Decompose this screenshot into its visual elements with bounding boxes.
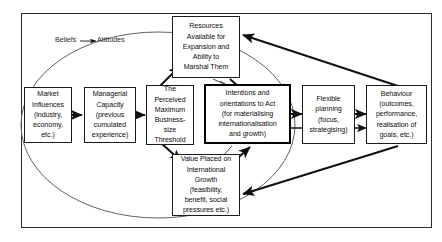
node-perceived-maximum-business-size-threshold[interactable]: The Perceived Maximum Business- size Thr… <box>146 85 194 145</box>
node-market-influences[interactable]: Market Influences (industry, economy, et… <box>24 87 72 143</box>
cycle-label-beliefs: Beliefs <box>55 36 76 44</box>
node-threshold-label: The Perceived Maximum Business- size Thr… <box>152 84 187 145</box>
arrow-behaviour-to-resources-feedback <box>243 35 398 86</box>
node-behaviour-label: Behaviour (outcomes, performance, realis… <box>374 89 419 140</box>
node-intentions-label: Intentions and orientations to Act (for … <box>216 88 278 139</box>
node-resources-available-label: Resources Available for Expansion and Ab… <box>181 21 231 72</box>
node-value-placed-international-growth[interactable]: Value Placed on International Growth (fe… <box>172 154 240 216</box>
node-market-influences-label: Market Influences (industry, economy, et… <box>30 89 66 140</box>
cycle-label-attitudes: Attitudes <box>97 36 125 44</box>
diagram-canvas: Market Influences (industry, economy, et… <box>0 0 442 242</box>
node-behaviour[interactable]: Behaviour (outcomes, performance, realis… <box>366 85 427 144</box>
node-resources-available[interactable]: Resources Available for Expansion and Ab… <box>172 16 240 78</box>
node-managerial-capacity[interactable]: Managerial Capacity (previous cumulated … <box>84 87 136 143</box>
node-managerial-capacity-label: Managerial Capacity (previous cumulated … <box>90 89 131 140</box>
node-value-placed-label: Value Placed on International Growth (fe… <box>179 154 233 215</box>
arrow-behaviour-to-value-feedback <box>243 146 398 194</box>
node-flexible-planning[interactable]: Flexible planning (focus, strategising) <box>302 85 355 144</box>
node-intentions-orientations-to-act[interactable]: Intentions and orientations to Act (for … <box>204 84 291 144</box>
node-flexible-planning-label: Flexible planning (focus, strategising) <box>308 94 350 135</box>
